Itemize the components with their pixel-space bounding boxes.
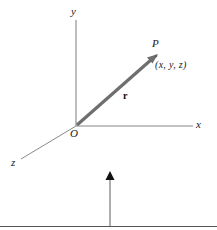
z-axis-label: z bbox=[11, 157, 15, 168]
vector-r-label: r bbox=[123, 91, 127, 101]
origin-label: O bbox=[70, 128, 78, 139]
z-axis-line bbox=[21, 126, 76, 159]
bottom-arrow-head-icon bbox=[106, 171, 115, 180]
x-axis-label: x bbox=[196, 119, 201, 130]
point-p-label: P bbox=[152, 38, 159, 49]
point-coordinates-label: (x, y, z) bbox=[155, 60, 187, 70]
y-axis-label: y bbox=[71, 6, 76, 17]
point-p-marker bbox=[155, 55, 158, 58]
position-vector-line bbox=[77, 59, 152, 125]
coordinate-system-diagram bbox=[0, 0, 217, 230]
